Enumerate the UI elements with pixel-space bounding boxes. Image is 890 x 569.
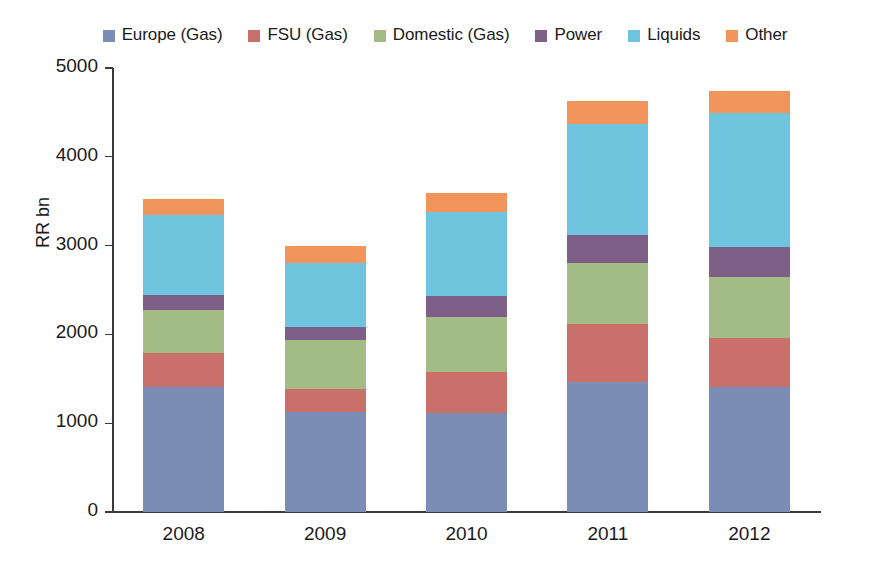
bar-segment[interactable] (426, 317, 507, 372)
bar-segment[interactable] (709, 247, 790, 278)
bar-segment[interactable] (285, 246, 366, 263)
bar-stack[interactable] (709, 91, 790, 512)
bar-segment[interactable] (285, 412, 366, 512)
x-axis-tick-label: 2009 (254, 523, 395, 545)
legend-entry[interactable]: Europe (Gas) (103, 26, 223, 43)
bar-segment[interactable] (426, 372, 507, 413)
y-axis-tick (105, 245, 113, 246)
bar-stack[interactable] (426, 193, 507, 512)
bar-group: 2012 (679, 68, 820, 512)
y-axis-tick (105, 334, 113, 335)
bar-segment[interactable] (567, 235, 648, 264)
bar-segment[interactable] (567, 124, 648, 234)
bar-group: 2009 (254, 68, 395, 512)
y-axis-tick-label: 1000 (18, 410, 98, 432)
bar-group: 2008 (113, 68, 254, 512)
bar-group: 2010 (396, 68, 537, 512)
bar-stack[interactable] (567, 101, 648, 512)
legend-swatch-icon (726, 30, 738, 42)
legend-label: Europe (Gas) (122, 26, 223, 43)
bar-segment[interactable] (143, 353, 224, 387)
legend-entry[interactable]: Liquids (628, 26, 700, 43)
legend-entry[interactable]: Power (535, 26, 602, 43)
legend-label: Domestic (Gas) (393, 26, 510, 43)
legend-swatch-icon (374, 30, 386, 42)
bar-segment[interactable] (426, 193, 507, 212)
y-axis-tick-label: 0 (18, 499, 98, 521)
y-axis-tick (105, 67, 113, 68)
x-axis-tick-label: 2008 (113, 523, 254, 545)
legend-swatch-icon (535, 30, 547, 42)
plot-area: 010002000300040005000 200820092010201120… (113, 68, 820, 512)
bar-segment[interactable] (567, 382, 648, 512)
legend-swatch-icon (103, 30, 115, 42)
bar-segment[interactable] (709, 338, 790, 388)
y-axis-tick-label: 5000 (18, 55, 98, 77)
bar-stack[interactable] (143, 199, 224, 512)
y-axis-tick (105, 156, 113, 157)
bar-segment[interactable] (143, 295, 224, 309)
bar-segment[interactable] (567, 101, 648, 124)
legend-label: FSU (Gas) (267, 26, 347, 43)
bar-segment[interactable] (426, 296, 507, 317)
bar-segment[interactable] (567, 263, 648, 324)
bar-segment[interactable] (143, 199, 224, 215)
bar-segment[interactable] (285, 389, 366, 412)
chart-legend: Europe (Gas)FSU (Gas)Domestic (Gas)Power… (0, 26, 890, 43)
y-axis-tick (105, 511, 113, 512)
bar-segment[interactable] (143, 215, 224, 295)
stacked-bar-chart: Europe (Gas)FSU (Gas)Domestic (Gas)Power… (0, 0, 890, 569)
legend-label: Power (554, 26, 602, 43)
bar-segment[interactable] (709, 91, 790, 113)
legend-label: Liquids (647, 26, 700, 43)
bar-segment[interactable] (285, 327, 366, 340)
x-axis-tick-label: 2012 (679, 523, 820, 545)
bar-segment[interactable] (426, 413, 507, 512)
y-axis-tick-label: 4000 (18, 144, 98, 166)
legend-entry[interactable]: Domestic (Gas) (374, 26, 510, 43)
bar-stack[interactable] (285, 246, 366, 512)
y-axis-tick-label: 2000 (18, 321, 98, 343)
bar-segment[interactable] (285, 340, 366, 389)
legend-entry[interactable]: Other (726, 26, 787, 43)
y-axis-tick (105, 423, 113, 424)
bar-group: 2011 (537, 68, 678, 512)
y-axis-tick-label: 3000 (18, 233, 98, 255)
legend-swatch-icon (248, 30, 260, 42)
legend-swatch-icon (628, 30, 640, 42)
bar-segment[interactable] (143, 310, 224, 354)
bar-segment[interactable] (709, 387, 790, 512)
legend-label: Other (745, 26, 787, 43)
x-axis-tick-label: 2011 (537, 523, 678, 545)
bar-segment[interactable] (426, 212, 507, 296)
legend-entry[interactable]: FSU (Gas) (248, 26, 347, 43)
x-axis-tick-label: 2010 (396, 523, 537, 545)
bar-segment[interactable] (285, 263, 366, 328)
bar-segment[interactable] (567, 324, 648, 382)
bar-segment[interactable] (709, 113, 790, 246)
bar-series-container: 20082009201020112012 (113, 68, 820, 512)
bar-segment[interactable] (709, 277, 790, 337)
bar-segment[interactable] (143, 387, 224, 512)
